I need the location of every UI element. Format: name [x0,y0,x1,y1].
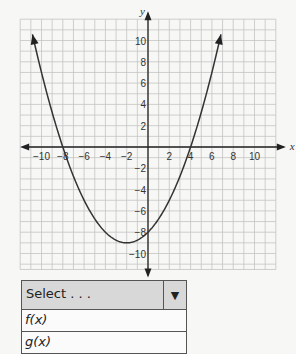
select-placeholder: Select . . . [22,281,163,309]
svg-text:2: 2 [140,121,146,132]
svg-text:2: 2 [167,151,173,162]
select-header[interactable]: Select . . . ▼ [21,280,187,310]
graph: −10−8−6−4−2246810108642−2−4−6−8−10 x y [0,0,296,280]
x-axis-label: x [289,140,295,152]
chevron-down-icon[interactable]: ▼ [163,281,186,309]
svg-text:6: 6 [140,78,146,89]
svg-text:−6: −6 [135,206,147,217]
svg-text:−2: −2 [135,163,147,174]
svg-text:8: 8 [230,151,236,162]
svg-text:−8: −8 [135,227,147,238]
svg-text:−2: −2 [121,151,133,162]
svg-text:8: 8 [140,57,146,68]
svg-text:−6: −6 [78,151,90,162]
svg-text:4: 4 [140,99,146,110]
svg-text:−10: −10 [129,249,146,260]
svg-text:6: 6 [209,151,215,162]
option-g-x[interactable]: g(x) [21,332,187,354]
svg-text:−10: −10 [33,151,50,162]
svg-text:−4: −4 [135,185,147,196]
function-select[interactable]: Select . . . ▼ f(x) g(x) [21,280,187,354]
y-axis-label: y [139,5,145,17]
svg-text:10: 10 [249,151,261,162]
svg-text:−4: −4 [100,151,112,162]
svg-text:10: 10 [135,36,147,47]
option-f-x[interactable]: f(x) [21,310,187,332]
